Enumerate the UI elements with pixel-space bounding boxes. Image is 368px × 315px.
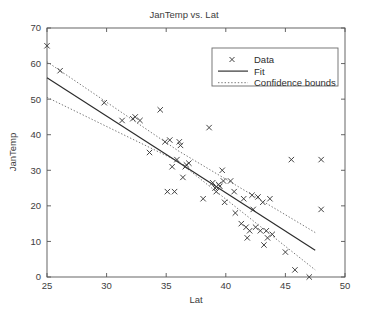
y-tick-label: 0 [36, 271, 41, 282]
x-tick-label: 30 [101, 280, 112, 291]
y-tick-label: 60 [30, 58, 41, 69]
y-tick-label: 20 [30, 200, 41, 211]
y-tick-label: 70 [30, 22, 41, 33]
x-tick-label: 40 [221, 280, 232, 291]
y-tick-label: 30 [30, 165, 41, 176]
x-axis-label: Lat [189, 294, 203, 305]
legend-item-label: Data [254, 54, 275, 65]
x-tick-label: 25 [42, 280, 53, 291]
y-tick-label: 10 [30, 236, 41, 247]
x-tick-label: 35 [161, 280, 172, 291]
scatter-plot: 253035404550 010203040506070 JanTemp vs.… [0, 0, 368, 315]
legend[interactable]: DataFitConfidence bounds [212, 48, 338, 88]
x-tick-label: 45 [280, 280, 291, 291]
y-axis-label: JanTemp [7, 133, 18, 172]
legend-item-label: Confidence bounds [254, 77, 336, 88]
y-tick-label: 50 [30, 94, 41, 105]
x-tick-label: 50 [340, 280, 351, 291]
figure-canvas: 253035404550 010203040506070 JanTemp vs.… [0, 0, 368, 315]
chart-title: JanTemp vs. Lat [149, 9, 219, 20]
legend-item-label: Fit [254, 66, 265, 77]
y-tick-label: 40 [30, 129, 41, 140]
